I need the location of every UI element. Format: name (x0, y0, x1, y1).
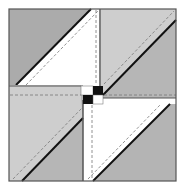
quilt-block-diagram (0, 0, 188, 191)
quadrant-bottom-right (84, 104, 176, 181)
center-squares (81, 86, 103, 104)
center-square-white (81, 86, 93, 95)
quadrant-top-right (101, 9, 176, 98)
quadrant-top-left (9, 9, 100, 95)
quadrant-bottom-left (9, 85, 83, 181)
center-square-white (93, 95, 103, 104)
center-square-black (93, 86, 103, 95)
center-square-black (83, 95, 93, 104)
